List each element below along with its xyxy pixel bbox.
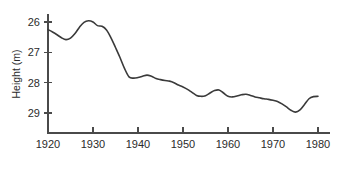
y-axis-title: Height (m) [10, 49, 22, 98]
y-tick-label-29: 29 [28, 107, 40, 119]
x-tick-label-1940: 1940 [126, 138, 150, 150]
x-axis-tick-labels: 1920193019401950196019701980 [36, 138, 330, 150]
x-tick-label-1980: 1980 [306, 138, 330, 150]
x-tick-label-1960: 1960 [216, 138, 240, 150]
x-tick-label-1950: 1950 [171, 138, 195, 150]
x-axis-ticks [48, 127, 318, 133]
chart-container: 26272829 1920193019401950196019701980 He… [0, 0, 348, 171]
line-chart: 26272829 1920193019401950196019701980 He… [0, 0, 348, 171]
y-tick-label-28: 28 [28, 77, 40, 89]
x-tick-label-1920: 1920 [36, 138, 60, 150]
axis-spines [48, 14, 330, 133]
y-axis-tick-labels: 26272829 [28, 16, 40, 119]
x-tick-label-1930: 1930 [81, 138, 105, 150]
x-tick-label-1970: 1970 [261, 138, 285, 150]
y-tick-label-27: 27 [28, 46, 40, 58]
data-series-line [48, 21, 318, 112]
y-tick-label-26: 26 [28, 16, 40, 28]
